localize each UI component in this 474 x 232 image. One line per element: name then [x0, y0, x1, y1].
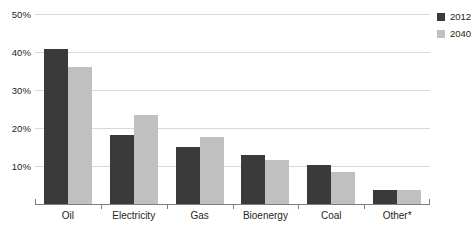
x-axis-tick	[364, 204, 365, 209]
legend-swatch-icon	[437, 30, 445, 38]
plot-area	[35, 14, 430, 204]
x-axis-start-cap	[35, 199, 36, 205]
bar-other-2012	[373, 190, 397, 204]
legend-swatch-icon	[437, 13, 445, 21]
gridline	[35, 52, 430, 53]
x-axis-tick	[298, 204, 299, 209]
bar-chart: 50%40%30%20%10% OilElectricityGasBioener…	[0, 0, 474, 232]
bar-electricity-2040	[134, 115, 158, 204]
legend-item[interactable]: 2012	[437, 8, 471, 25]
bar-gas-2040	[200, 137, 224, 204]
legend-label: 2040	[450, 28, 471, 39]
bar-other-2040	[397, 190, 421, 204]
y-axis-tick-label: 20%	[0, 123, 31, 134]
x-axis-tick-label: Bioenergy	[243, 210, 288, 221]
x-axis-end-cap	[429, 199, 430, 205]
bar-coal-2012	[307, 165, 331, 204]
x-axis-tick-label: Electricity	[112, 210, 155, 221]
x-axis-tick-label: Coal	[321, 210, 342, 221]
bar-oil-2012	[44, 49, 68, 204]
legend-label: 2012	[450, 11, 471, 22]
x-axis-tick	[101, 204, 102, 209]
gridline	[35, 166, 430, 167]
y-axis-tick-label: 30%	[0, 85, 31, 96]
x-axis-tick-label: Other*	[383, 210, 412, 221]
x-axis-tick-label: Oil	[62, 210, 74, 221]
gridline	[35, 14, 430, 15]
y-axis-tick-label: 10%	[0, 161, 31, 172]
x-axis-tick	[167, 204, 168, 209]
gridline	[35, 128, 430, 129]
y-axis-tick-label: 50%	[0, 9, 31, 20]
bar-bioenergy-2012	[241, 155, 265, 204]
bar-oil-2040	[68, 67, 92, 204]
bar-gas-2012	[176, 147, 200, 204]
bar-coal-2040	[331, 172, 355, 204]
x-axis-tick	[233, 204, 234, 209]
y-axis-tick-label: 40%	[0, 47, 31, 58]
legend-item[interactable]: 2040	[437, 25, 471, 42]
gridline	[35, 90, 430, 91]
chart-legend: 20122040	[437, 8, 471, 42]
bar-bioenergy-2040	[265, 160, 289, 204]
bar-electricity-2012	[110, 135, 134, 204]
x-axis-tick-label: Gas	[190, 210, 208, 221]
